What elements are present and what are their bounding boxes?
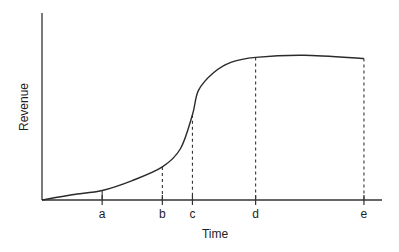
revenue-curve — [42, 55, 364, 200]
x-tick-label-e: e — [361, 207, 368, 221]
x-tick-label-c: c — [189, 207, 195, 221]
y-axis-label: Revenue — [17, 83, 31, 131]
x-tick-label-a: a — [99, 207, 106, 221]
x-axis-label: Time — [202, 227, 229, 241]
x-tick-label-d: d — [252, 207, 259, 221]
x-tick-label-b: b — [159, 207, 166, 221]
revenue-time-chart: abcde Time Revenue — [0, 0, 399, 252]
